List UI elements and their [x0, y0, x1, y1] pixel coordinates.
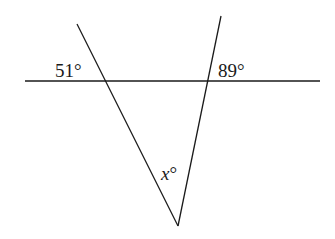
left-transversal — [77, 24, 178, 226]
right-angle-label: 89° — [218, 60, 245, 81]
diagram-svg: 51° 89° x° — [0, 0, 335, 239]
bottom-angle-label: x° — [160, 163, 177, 184]
left-angle-label: 51° — [55, 60, 82, 81]
degree-symbol: ° — [169, 163, 177, 184]
right-transversal — [178, 16, 221, 226]
geometry-diagram: 51° 89° x° — [0, 0, 335, 239]
